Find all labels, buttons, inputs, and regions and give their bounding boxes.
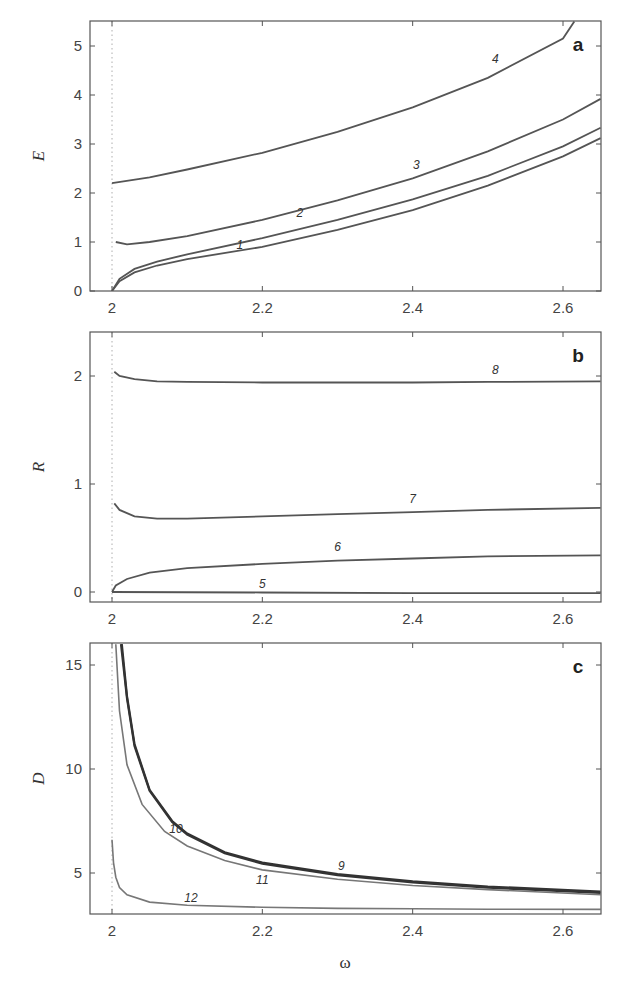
y-tick-label: 1 — [74, 475, 82, 492]
y-axis-label: D — [29, 772, 48, 786]
curve-label: 6 — [334, 540, 341, 554]
y-tick-label: 0 — [74, 583, 82, 600]
curve-label: 7 — [409, 492, 417, 506]
curve-10 — [121, 644, 601, 893]
curve-label: 8 — [492, 363, 499, 377]
plot-frame — [90, 643, 601, 914]
y-tick-label: 5 — [74, 864, 82, 881]
curve-5 — [112, 592, 601, 593]
curve-9 — [122, 644, 601, 892]
curve-6 — [112, 555, 601, 592]
panel-c-d: 22.22.42.651015Dc1091112 — [29, 643, 601, 939]
x-tick-label: 2.4 — [402, 610, 423, 627]
x-tick-label: 2.2 — [252, 922, 273, 939]
x-tick-label: 2.2 — [252, 610, 273, 627]
y-tick-label: 10 — [65, 760, 82, 777]
y-tick-label: 0 — [74, 282, 82, 299]
panel-a-energy: 22.22.42.6012345Ea1234 — [29, 21, 601, 316]
curve-4 — [112, 22, 574, 184]
plot-frame — [90, 21, 601, 291]
x-tick-label: 2.4 — [402, 299, 423, 316]
curve-7 — [114, 503, 600, 518]
y-tick-label: 3 — [74, 135, 82, 152]
curve-label: 12 — [184, 891, 198, 905]
curve-label: 1 — [236, 238, 243, 252]
y-tick-label: 1 — [74, 233, 82, 250]
y-tick-label: 4 — [74, 86, 82, 103]
panel-letter: a — [573, 34, 584, 55]
y-tick-label: 2 — [74, 367, 82, 384]
panel-b-r: 22.22.42.6012Rb5678 — [29, 332, 601, 627]
curve-label: 10 — [169, 822, 183, 836]
x-tick-label: 2 — [108, 922, 116, 939]
plot-frame — [90, 332, 601, 602]
curve-label: 11 — [256, 873, 268, 887]
curve-label: 5 — [259, 577, 266, 591]
y-tick-label: 2 — [74, 184, 82, 201]
figure: 22.22.42.6012345Ea1234 22.22.42.6012Rb56… — [0, 0, 626, 995]
x-tick-label: 2 — [108, 299, 116, 316]
x-tick-label: 2.4 — [402, 922, 423, 939]
curve-2 — [112, 128, 601, 291]
x-axis-label: ω — [339, 953, 350, 972]
curve-label: 2 — [296, 206, 304, 220]
x-tick-label: 2 — [108, 610, 116, 627]
y-axis-label: R — [29, 461, 48, 473]
y-tick-label: 5 — [74, 37, 82, 54]
x-tick-label: 2.6 — [553, 610, 574, 627]
x-tick-label: 2.6 — [553, 922, 574, 939]
curve-8 — [114, 372, 600, 383]
x-tick-label: 2.6 — [553, 299, 574, 316]
curve-label: 3 — [413, 158, 420, 172]
curve-label: 4 — [492, 52, 499, 66]
curve-3 — [116, 99, 601, 245]
panel-letter: c — [573, 656, 584, 677]
curve-label: 9 — [338, 859, 345, 873]
panel-letter: b — [572, 345, 584, 366]
y-tick-label: 15 — [65, 656, 82, 673]
x-tick-label: 2.2 — [252, 299, 273, 316]
y-axis-label: E — [29, 150, 48, 162]
curve-11 — [116, 644, 601, 895]
